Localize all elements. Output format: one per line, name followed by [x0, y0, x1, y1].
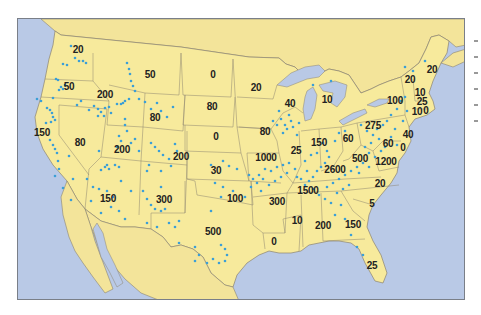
region-label-georgia: 150 — [345, 220, 361, 230]
region-label-wyoming: 80 — [150, 113, 161, 123]
region-label-missouri: 1000 — [255, 153, 276, 163]
region-label-colorado: 200 — [173, 152, 189, 162]
region-label-pennsylvania: 275 — [365, 121, 381, 131]
region-label-maine: 20 — [427, 65, 438, 75]
region-label-connecticut: 10 — [412, 107, 423, 117]
region-label-north-dakota: 0 — [210, 70, 215, 80]
region-label-minnesota: 20 — [251, 83, 262, 93]
region-label-indiana: 150 — [311, 138, 327, 148]
region-label-nevada: 80 — [75, 138, 86, 148]
region-label-iowa: 80 — [260, 127, 271, 137]
region-label-arkansas: 300 — [269, 197, 285, 207]
region-label-mississippi: 10 — [292, 216, 303, 226]
region-label-idaho: 200 — [97, 90, 113, 100]
region-label-oklahoma: 100 — [227, 194, 243, 204]
region-label-new-york: 100 — [387, 96, 403, 106]
region-label-kentucky: 2600 — [324, 165, 345, 175]
region-label-ohio: 60 — [343, 134, 354, 144]
region-label-alabama: 200 — [315, 221, 331, 231]
region-label-california: 150 — [34, 128, 50, 138]
region-label-maryland: 60 — [383, 139, 394, 149]
region-label-montana: 50 — [145, 70, 156, 80]
region-label-louisiana: 0 — [271, 237, 276, 247]
region-label-texas: 500 — [205, 227, 221, 237]
region-label-oregon: 50 — [64, 82, 75, 92]
region-label-south-carolina: 5 — [369, 199, 374, 209]
region-label-wisconsin: 40 — [285, 99, 296, 109]
region-label-delaware: 0 — [400, 143, 405, 153]
region-label-illinois: 25 — [291, 146, 302, 156]
region-label-washington: 20 — [73, 45, 84, 55]
region-label-arizona: 150 — [100, 194, 116, 204]
region-label-rhode-island: 0 — [423, 106, 428, 116]
region-label-kansas: 30 — [211, 166, 222, 176]
region-label-michigan: 10 — [322, 95, 333, 105]
region-label-florida: 25 — [367, 261, 378, 271]
region-label-new-jersey: 40 — [403, 130, 414, 140]
region-label-virginia: 1200 — [375, 157, 396, 167]
map-frame — [17, 18, 465, 300]
region-label-new-mexico: 300 — [156, 195, 172, 205]
region-label-nebraska: 0 — [213, 132, 218, 142]
region-label-utah: 200 — [114, 145, 130, 155]
region-label-west-virginia: 500 — [352, 154, 368, 164]
region-label-tennessee: 1500 — [297, 186, 318, 196]
region-label-vermont: 20 — [405, 75, 416, 85]
region-label-south-dakota: 80 — [207, 102, 218, 112]
region-label-north-carolina: 20 — [375, 179, 386, 189]
us-map — [18, 19, 465, 300]
legend-edge-marks — [474, 40, 480, 240]
